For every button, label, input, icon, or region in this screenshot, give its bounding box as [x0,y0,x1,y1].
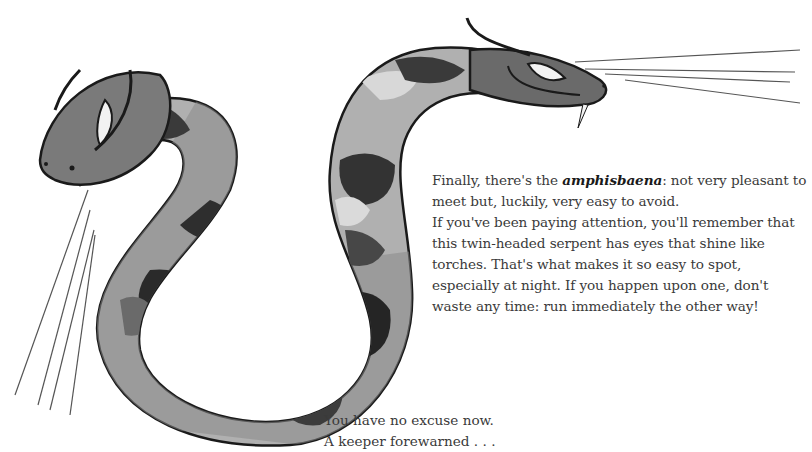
left-head [40,70,170,185]
closing-text: You have no excuse now. A keeper forewar… [324,410,624,452]
body-text: Finally, there's the amphisbaena: not ve… [432,170,812,317]
motion-lines-right [575,50,800,103]
term-amphisbaena: amphisbaena [562,172,662,188]
right-head [467,18,606,128]
closing-line-2: A keeper forewarned . . . [324,431,624,452]
motion-lines-left [15,190,95,415]
closing-line-1: You have no excuse now. [324,410,624,431]
paragraph-description: If you've been paying attention, you'll … [432,212,812,317]
paragraph-intro: Finally, there's the amphisbaena: not ve… [432,170,812,212]
